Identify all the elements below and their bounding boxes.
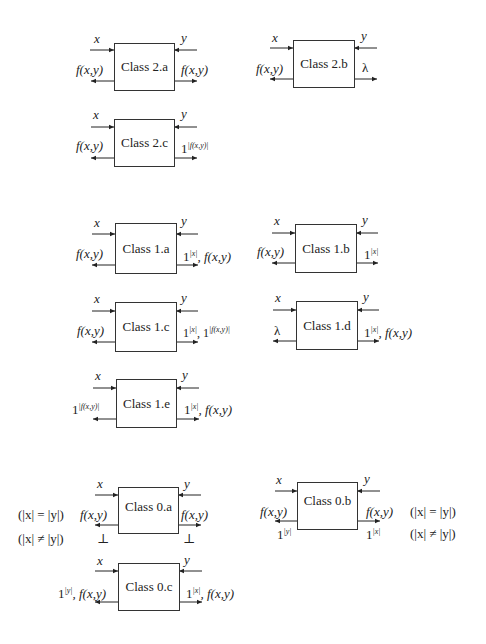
class-1e-input-x: x bbox=[95, 369, 101, 383]
wires-layer bbox=[0, 0, 486, 644]
class-2c-output-right: 1|f(x,y)| bbox=[181, 139, 209, 156]
class-0a-box: Class 0.a bbox=[118, 487, 179, 534]
class-0a-input-y: y bbox=[184, 477, 190, 491]
class-1a-input-x: x bbox=[94, 216, 100, 230]
class-1c-output-right: 1|x|, 1|f(x,y)| bbox=[183, 323, 230, 340]
class-0a-output-right: f(x,y) bbox=[181, 508, 208, 522]
class-1d-input-y: y bbox=[363, 290, 369, 304]
class-1b-input-y: y bbox=[362, 213, 368, 227]
class-2b-input-y: y bbox=[361, 29, 367, 43]
class-1d-label: Class 1.d bbox=[303, 318, 351, 334]
class-0a-condition-not-equal: (|x| ≠ |y|) bbox=[18, 532, 64, 546]
class-0b-output-right-bottom: 1|x| bbox=[366, 525, 380, 542]
class-2c-output-left: f(x,y) bbox=[76, 139, 103, 153]
class-0b-box: Class 0.b bbox=[297, 482, 358, 530]
class-1a-output-left: f(x,y) bbox=[76, 247, 103, 261]
class-2b-label: Class 2.b bbox=[300, 56, 348, 72]
class-2b-output-left: f(x,y) bbox=[256, 62, 283, 76]
class-0a-condition-equal: (|x| = |y|) bbox=[18, 508, 64, 522]
class-2c-label: Class 2.c bbox=[121, 135, 168, 151]
class-1e-input-y: y bbox=[182, 368, 188, 382]
class-0b-label: Class 0.b bbox=[304, 493, 352, 509]
class-1d-output-left: λ bbox=[274, 324, 280, 338]
class-1c-input-x: x bbox=[94, 292, 100, 306]
class-2c-input-x: x bbox=[93, 108, 99, 122]
class-1b-label: Class 1.b bbox=[302, 241, 350, 257]
class-1c-output-left: f(x,y) bbox=[77, 324, 104, 338]
class-1b-input-x: x bbox=[274, 214, 280, 228]
class-1c-input-y: y bbox=[181, 291, 187, 305]
class-1b-output-right: 1|x| bbox=[364, 245, 378, 262]
class-0b-output-right: f(x,y) bbox=[366, 505, 393, 519]
class-1e-label: Class 1.e bbox=[123, 396, 170, 412]
class-0b-output-left: f(x,y) bbox=[260, 505, 287, 519]
class-2b-output-right: λ bbox=[362, 61, 368, 75]
class-0b-condition-not-equal: (|x| ≠ |y|) bbox=[410, 527, 456, 541]
class-0c-input-x: x bbox=[97, 554, 103, 568]
class-1a-output-right: 1|x|, f(x,y) bbox=[183, 247, 231, 264]
class-0c-input-y: y bbox=[184, 553, 190, 567]
class-2c-input-y: y bbox=[181, 107, 187, 121]
class-1e-box: Class 1.e bbox=[116, 379, 177, 428]
class-2a-input-x: x bbox=[94, 32, 100, 46]
class-2a-output-right: f(x,y) bbox=[181, 63, 208, 77]
class-0b-input-y: y bbox=[364, 472, 370, 486]
class-0c-output-left: 1|y|, f(x,y) bbox=[58, 584, 106, 601]
class-0a-output-left-bottom: ⊥ bbox=[97, 532, 109, 546]
class-0c-label: Class 0.c bbox=[126, 579, 173, 595]
class-1b-output-left: f(x,y) bbox=[257, 245, 284, 259]
class-1d-output-right: 1|x|, f(x,y) bbox=[364, 323, 412, 340]
class-1d-box: Class 1.d bbox=[296, 301, 358, 350]
class-1e-output-right: 1|x|, f(x,y) bbox=[184, 400, 232, 417]
class-0a-output-right-bottom: ⊥ bbox=[183, 532, 195, 546]
class-1a-box: Class 1.a bbox=[115, 223, 177, 274]
class-2b-input-x: x bbox=[272, 31, 278, 45]
class-1b-box: Class 1.b bbox=[295, 224, 357, 273]
class-0b-condition-equal: (|x| = |y|) bbox=[410, 505, 456, 519]
class-2a-box: Class 2.a bbox=[114, 43, 175, 91]
class-1c-label: Class 1.c bbox=[123, 319, 170, 335]
class-0b-output-left-bottom: 1|y| bbox=[277, 525, 291, 542]
class-0a-input-x: x bbox=[97, 477, 103, 491]
class-0c-output-right: 1|x|, f(x,y) bbox=[186, 584, 234, 601]
class-2a-label: Class 2.a bbox=[121, 59, 168, 75]
class-1a-input-y: y bbox=[181, 214, 187, 228]
class-0a-label: Class 0.a bbox=[125, 499, 172, 515]
class-0b-input-x: x bbox=[276, 473, 282, 487]
class-1e-output-left: 1|f(x,y)| bbox=[72, 400, 100, 417]
class-0a-output-left: f(x,y) bbox=[80, 508, 107, 522]
class-2a-output-left: f(x,y) bbox=[76, 63, 103, 77]
class-2b-box: Class 2.b bbox=[293, 40, 355, 88]
class-1c-box: Class 1.c bbox=[115, 302, 177, 352]
class-1a-label: Class 1.a bbox=[123, 241, 170, 257]
class-1d-input-x: x bbox=[275, 291, 281, 305]
class-0c-box: Class 0.c bbox=[118, 563, 180, 611]
class-2c-box: Class 2.c bbox=[114, 119, 175, 167]
class-2a-input-y: y bbox=[181, 31, 187, 45]
